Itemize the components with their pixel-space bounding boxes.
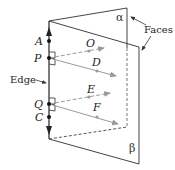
label-a: A bbox=[34, 35, 43, 48]
dihedral-diagram: A P Q C O D E F α β Edge Faces bbox=[0, 0, 175, 170]
label-alpha: α bbox=[116, 11, 124, 24]
plane-alpha bbox=[49, 8, 127, 139]
ray-qe bbox=[49, 93, 110, 104]
label-d: D bbox=[91, 56, 101, 69]
point-p bbox=[47, 56, 51, 60]
edge-arrow-up-icon bbox=[46, 27, 52, 36]
point-a bbox=[47, 39, 51, 43]
label-e: E bbox=[86, 83, 95, 96]
ray-pd bbox=[49, 58, 116, 76]
callout-faces: Faces bbox=[144, 24, 173, 35]
faces-callout-arrow-beta-icon bbox=[142, 36, 151, 50]
edge-line bbox=[46, 21, 52, 139]
point-f-dot bbox=[95, 115, 98, 118]
ray-qf bbox=[49, 104, 118, 124]
label-o: O bbox=[86, 37, 95, 50]
edge-arrow-down-icon bbox=[46, 126, 52, 135]
label-p: P bbox=[33, 52, 42, 65]
rays bbox=[49, 48, 118, 124]
point-c bbox=[47, 115, 51, 119]
label-f: F bbox=[92, 101, 101, 114]
edge-callout-arrow-icon bbox=[36, 80, 46, 83]
callout-edge: Edge bbox=[10, 74, 36, 85]
label-q: Q bbox=[34, 98, 43, 111]
label-c: C bbox=[35, 111, 44, 124]
right-angle-marks bbox=[49, 52, 55, 111]
point-d-dot bbox=[95, 69, 98, 72]
label-beta: β bbox=[129, 142, 135, 155]
faces-callout-arrow-alpha-icon bbox=[131, 17, 146, 25]
point-q bbox=[47, 102, 51, 106]
